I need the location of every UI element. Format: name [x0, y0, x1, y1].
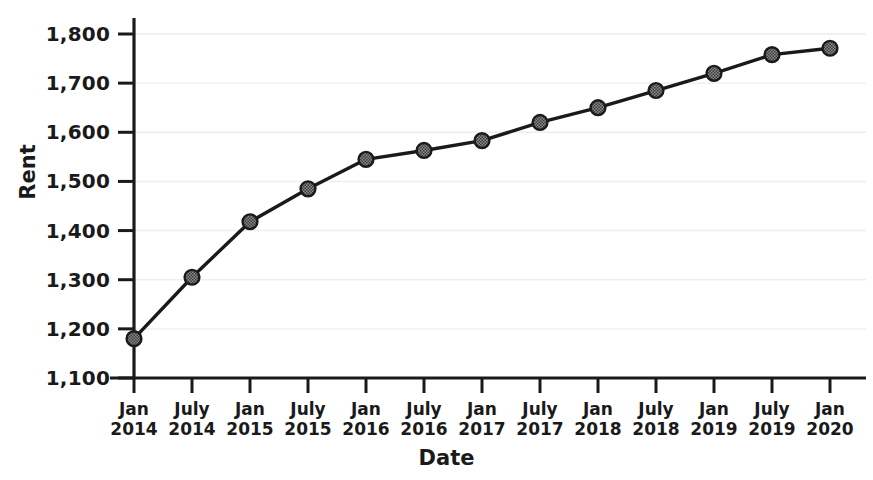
data-point-marker	[301, 181, 316, 196]
data-point-marker	[359, 152, 374, 167]
rent-series-markers	[127, 41, 838, 346]
data-point-marker	[533, 115, 548, 130]
x-tick-label-year: 2020	[790, 419, 870, 439]
y-axis-tick-label: 1,400	[0, 221, 110, 241]
data-point-marker	[185, 270, 200, 285]
data-point-marker	[823, 41, 838, 56]
data-point-marker	[707, 66, 722, 81]
gridlines	[134, 34, 866, 329]
y-axis-tick-label: 1,100	[0, 368, 110, 388]
x-axis-tick-marks	[134, 378, 830, 393]
rent-over-time-line-chart: 1,8001,7001,6001,5001,4001,3001,2001,100…	[0, 0, 873, 480]
data-point-marker	[475, 133, 490, 148]
x-axis-title-text: Date	[419, 446, 475, 470]
data-point-marker	[649, 83, 664, 98]
data-point-marker	[591, 100, 606, 115]
data-point-marker	[765, 47, 780, 62]
rent-series-line	[134, 48, 830, 338]
y-axis-tick-label: 1,800	[0, 24, 110, 44]
y-axis-tick-label: 1,200	[0, 319, 110, 339]
x-axis-title: Date	[0, 446, 873, 470]
y-axis-tick-label: 1,300	[0, 270, 110, 290]
y-axis-title: Rent	[16, 122, 40, 222]
x-axis-tick-label: Jan2020	[790, 399, 870, 439]
y-axis-tick-marks	[118, 34, 134, 378]
y-axis-tick-label: 1,700	[0, 73, 110, 93]
x-tick-label-month: Jan	[790, 399, 870, 419]
data-point-marker	[243, 214, 258, 229]
data-point-marker	[127, 331, 142, 346]
data-point-marker	[417, 143, 432, 158]
